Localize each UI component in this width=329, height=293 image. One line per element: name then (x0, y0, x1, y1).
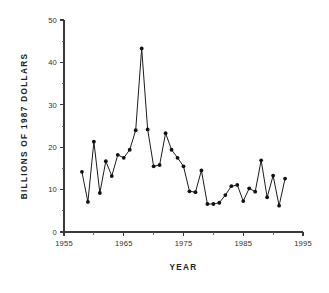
data-point-marker (116, 153, 120, 157)
x-tick-label: 1965 (115, 239, 133, 248)
data-point-marker (128, 148, 132, 152)
x-axis-title: YEAR (169, 263, 197, 272)
series-markers (80, 47, 287, 208)
data-point-marker (200, 169, 204, 173)
data-point-marker (158, 163, 162, 167)
data-point-marker (265, 195, 269, 199)
data-point-marker (247, 186, 251, 190)
y-tick-label: 20 (48, 143, 57, 152)
data-point-marker (122, 156, 126, 160)
data-point-marker (164, 131, 168, 135)
y-axis-tick-labels: 01020304050 (48, 16, 57, 237)
data-point-marker (217, 201, 221, 205)
data-point-marker (211, 202, 215, 206)
y-tick-label: 40 (48, 58, 57, 67)
x-tick-label: 1985 (234, 239, 252, 248)
y-axis-ticks (60, 20, 64, 232)
x-axis-ticks (64, 232, 303, 236)
data-point-marker (241, 199, 245, 203)
data-point-marker (92, 140, 96, 144)
data-point-marker (194, 190, 198, 194)
x-tick-label: 1995 (294, 239, 312, 248)
data-point-marker (277, 204, 281, 208)
data-point-marker (146, 127, 150, 131)
data-point-marker (134, 128, 138, 132)
data-point-marker (104, 159, 108, 163)
data-point-marker (235, 183, 239, 187)
y-axis-title: BILLIONS OF 1987 DOLLARS (20, 53, 29, 200)
y-tick-label: 30 (48, 101, 57, 110)
data-point-marker (271, 174, 275, 178)
x-tick-label: 1975 (175, 239, 193, 248)
data-point-marker (259, 158, 263, 162)
data-point-marker (182, 164, 186, 168)
data-point-marker (229, 184, 233, 188)
line-chart-svg: 01020304050 19551965197519851995 BILLION… (0, 0, 329, 293)
y-tick-label: 10 (48, 185, 57, 194)
data-point-marker (152, 164, 156, 168)
data-point-marker (140, 47, 144, 51)
y-tick-label: 50 (48, 16, 57, 25)
axes-group (64, 20, 303, 232)
y-tick-label: 0 (53, 228, 57, 237)
chart-figure: 01020304050 19551965197519851995 BILLION… (0, 0, 329, 293)
data-point-marker (170, 148, 174, 152)
data-point-marker (86, 200, 90, 204)
data-point-marker (223, 193, 227, 197)
data-point-marker (188, 189, 192, 193)
data-point-marker (176, 156, 180, 160)
x-tick-label: 1955 (55, 239, 73, 248)
data-point-marker (98, 191, 102, 195)
data-point-marker (80, 170, 84, 174)
data-point-marker (253, 190, 257, 194)
data-point-marker (110, 174, 114, 178)
data-point-marker (283, 177, 287, 181)
x-axis-tick-labels: 19551965197519851995 (55, 239, 312, 248)
data-point-marker (206, 202, 210, 206)
series-line (82, 48, 285, 205)
